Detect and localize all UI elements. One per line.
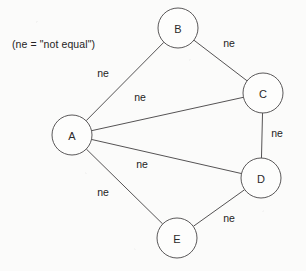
edge-a-b (86, 42, 164, 121)
edge-label-a-d: ne (136, 158, 148, 170)
node-c[interactable]: C (243, 73, 283, 113)
edge-label-a-e: ne (97, 186, 109, 198)
edge-label-b-c: ne (223, 37, 235, 49)
edge-label-a-c: ne (134, 91, 146, 103)
node-label-a: A (68, 130, 76, 142)
edge-b-c (194, 40, 247, 81)
edge-label-a-b: ne (97, 67, 109, 79)
node-b[interactable]: B (158, 8, 198, 48)
node-e[interactable]: E (157, 218, 197, 258)
edge-label-d-e: ne (223, 212, 235, 224)
diagram-canvas: ABCDE nenenenenenene (ne = "not equal") (0, 0, 306, 271)
edge-a-d (92, 139, 242, 173)
node-a[interactable]: A (52, 115, 92, 155)
node-label-b: B (174, 23, 181, 35)
legend-caption: (ne = "not equal") (12, 38, 95, 50)
node-d[interactable]: D (241, 158, 281, 198)
node-label-c: C (259, 88, 267, 100)
node-label-e: E (173, 233, 180, 245)
edges-layer (86, 40, 262, 226)
edge-label-c-d: ne (271, 127, 283, 139)
edge-d-e (193, 190, 244, 227)
edge-c-d (261, 113, 262, 158)
node-label-d: D (257, 173, 265, 185)
edge-a-c (92, 97, 244, 130)
